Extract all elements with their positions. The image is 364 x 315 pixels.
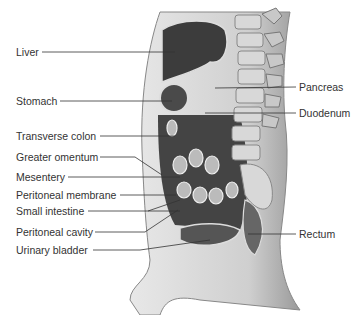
label-mesentery: Mesentery (16, 171, 65, 183)
label-duodenum: Duodenum (299, 107, 350, 119)
label-peritoneal-cavity: Peritoneal cavity (16, 226, 93, 238)
label-liver: Liver (16, 46, 39, 58)
label-transverse-colon: Transverse colon (16, 130, 96, 142)
label-small-intestine: Small intestine (16, 205, 84, 217)
label-peritoneal-membrane: Peritoneal membrane (16, 189, 116, 201)
anatomy-diagram: Liver Stomach Transverse colon Greater o… (0, 0, 364, 315)
label-urinary-bladder: Urinary bladder (16, 244, 88, 256)
label-greater-omentum: Greater omentum (16, 151, 98, 163)
label-rectum: Rectum (299, 228, 335, 240)
label-pancreas: Pancreas (299, 81, 343, 93)
label-stomach: Stomach (16, 95, 57, 107)
